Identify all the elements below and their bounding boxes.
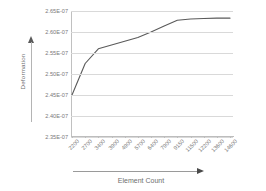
gridline <box>71 116 233 117</box>
deformation-vs-element-count-chart: Deformation 2.65E-072.60E-072.55E-072.50… <box>0 0 266 191</box>
y-axis-tick-label: 2.40E-07 <box>24 113 68 119</box>
x-axis-tick-label: 2200 <box>67 138 80 151</box>
x-axis-tick-label: 5700 <box>133 138 146 151</box>
x-axis-tick-label: 11500 <box>184 138 199 153</box>
x-axis-tick-label: 3900 <box>107 138 120 151</box>
right-arrow-icon <box>197 168 204 174</box>
x-axis-tick-mark <box>217 136 218 138</box>
y-axis-tick-label: 2.35E-07 <box>24 134 68 140</box>
y-axis-tick-label: 2.45E-07 <box>24 92 68 98</box>
x-axis-title-group: Element Count <box>71 168 234 190</box>
gridline <box>71 11 233 12</box>
x-axis-tick-mark <box>138 136 139 138</box>
gridline <box>71 32 233 33</box>
x-axis-tick-mark <box>191 136 192 138</box>
x-axis-tick-labels: 2200270034003900490057006400790091501150… <box>71 138 234 164</box>
x-axis-tick-mark <box>204 136 205 138</box>
y-axis-tick-label: 2.50E-07 <box>24 71 68 77</box>
gridline <box>71 74 233 75</box>
x-axis-arrow-shaft <box>73 171 199 172</box>
y-axis-tick-label: 2.55E-07 <box>24 50 68 56</box>
x-axis-tick-mark <box>164 136 165 138</box>
x-axis-tick-mark <box>125 136 126 138</box>
x-axis-tick-label: 3400 <box>94 138 107 151</box>
x-axis-tick-mark <box>151 136 152 138</box>
gridline <box>71 53 233 54</box>
x-axis-tick-mark <box>85 136 86 138</box>
x-axis-title: Element Count <box>71 177 211 184</box>
y-axis-tick-labels: 2.65E-072.60E-072.55E-072.50E-072.45E-07… <box>24 8 68 137</box>
x-axis-tick-label: 6400 <box>146 138 159 151</box>
x-axis-tick-label: 2700 <box>80 138 93 151</box>
x-axis-tick-label: 12200 <box>197 138 212 153</box>
y-axis-tick-label: 2.65E-07 <box>24 8 68 14</box>
x-axis-tick-label: 13600 <box>210 138 225 153</box>
y-axis-tick-label: 2.60E-07 <box>24 29 68 35</box>
x-axis-tick-label: 7900 <box>159 138 172 151</box>
gridline <box>71 95 233 96</box>
x-axis-tick-mark <box>98 136 99 138</box>
x-axis-tick-label: 9150 <box>173 138 186 151</box>
x-axis-tick-label: 14600 <box>223 138 238 153</box>
x-axis-tick-mark <box>112 136 113 138</box>
plot-area <box>71 11 233 137</box>
x-axis-tick-mark <box>72 136 73 138</box>
x-axis-tick-label: 4900 <box>120 138 133 151</box>
x-axis-tick-mark <box>230 136 231 138</box>
x-axis-tick-mark <box>177 136 178 138</box>
